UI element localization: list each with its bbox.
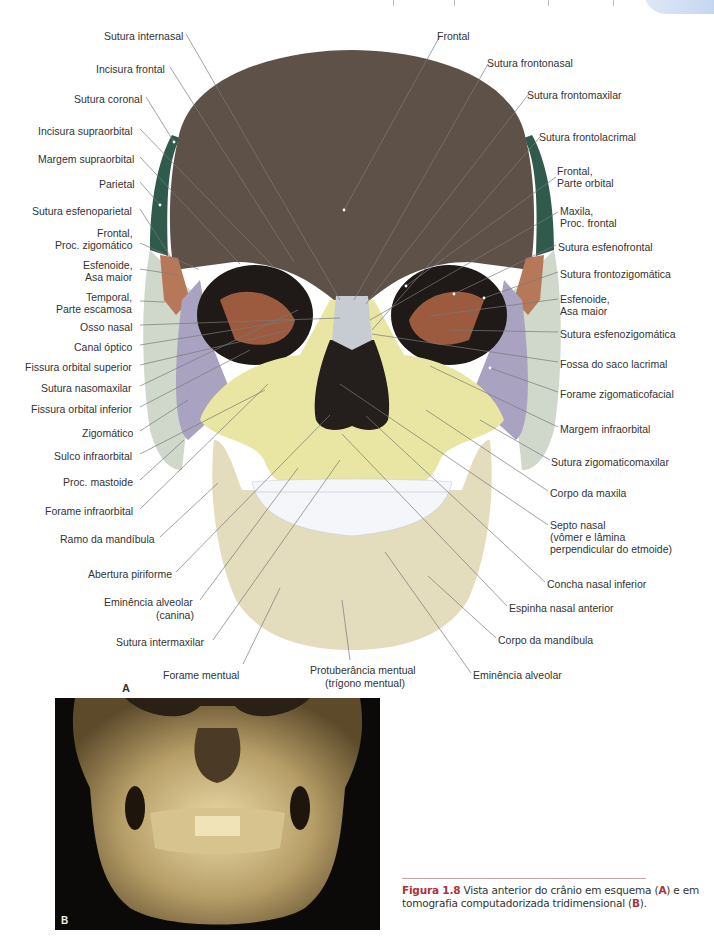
label-temporal-2: Parte escamosa: [56, 303, 132, 315]
label-esfenoide-asa-maior-1: Esfenoide,: [83, 259, 133, 271]
label-sutura-frontolacrimal: Sutura frontolacrimal: [539, 131, 636, 143]
label-esfenoide-asa-maior-right-1: Esfenoide,: [560, 293, 610, 305]
label-sutura-intermaxilar: Sutura intermaxilar: [116, 636, 204, 648]
label-eminencia-alveolar: Eminência alveolar: [473, 669, 562, 681]
label-frontal-proc-zigomatico-2: Proc. zigomático: [55, 239, 133, 251]
label-septo-nasal-2: (vômer e lâmina: [550, 531, 625, 543]
panel-b-letter: B: [61, 915, 68, 926]
label-sutura-esfenofrontal: Sutura esfenofrontal: [558, 241, 653, 253]
panel-a-letter: A: [122, 682, 130, 694]
label-esfenoide-asa-maior-right-2: Asa maior: [560, 305, 607, 317]
label-concha-nasal-inferior: Concha nasal inferior: [547, 578, 646, 590]
label-fissura-orbital-superior: Fissura orbital superior: [25, 361, 132, 373]
label-sulco-infraorbital: Sulco infraorbital: [54, 450, 132, 462]
label-sutura-frontonasal: Sutura frontonasal: [487, 57, 573, 69]
label-fissura-orbital-inferior: Fissura orbital inferior: [31, 403, 132, 415]
label-temporal-1: Temporal,: [86, 291, 132, 303]
label-margem-infraorbital: Margem infraorbital: [560, 423, 650, 435]
label-corpo-da-maxila: Corpo da maxila: [550, 487, 626, 499]
label-maxila-proc-frontal-1: Maxila,: [560, 205, 593, 217]
figure-caption: Figura 1.8 Vista anterior do crânio em e…: [402, 884, 702, 910]
figure-number: Figura 1.8: [402, 884, 460, 896]
label-sutura-frontozigomatica: Sutura frontozigomática: [560, 268, 671, 280]
label-frontal-parte-orbital-1: Frontal,: [557, 165, 593, 177]
ct-skull-render: [55, 698, 380, 930]
label-incisura-supraorbital: Incisura supraorbital: [38, 125, 133, 137]
label-eminencia-alveolar-canina-1: Eminência alveolar: [104, 596, 193, 608]
label-espinha-nasal-anterior: Espinha nasal anterior: [509, 602, 613, 614]
label-margem-supraorbital: Margem supraorbital: [38, 153, 134, 165]
label-frontal-proc-zigomatico-1: Frontal,: [97, 227, 133, 239]
label-sutura-zigomaticomaxilar: Sutura zigomaticomaxilar: [551, 456, 669, 468]
label-septo-nasal-1: Septo nasal: [550, 519, 605, 531]
label-maxila-proc-frontal-2: Proc. frontal: [560, 217, 617, 229]
label-osso-nasal: Osso nasal: [80, 321, 133, 333]
label-esfenoide-asa-maior-2: Asa maior: [85, 271, 132, 283]
label-sutura-coronal: Sutura coronal: [74, 93, 142, 105]
label-sutura-esfenozigomatica: Sutura esfenozigomática: [560, 328, 676, 340]
label-sutura-esfenoparietal: Sutura esfenoparietal: [32, 205, 132, 217]
label-sutura-internasal: Sutura internasal: [104, 30, 183, 42]
label-septo-nasal-3: perpendicular do etmoide): [550, 543, 672, 555]
caption-text-1: Vista anterior do crânio em esquema (: [460, 884, 658, 896]
label-fossa-do-saco-lacrimal: Fossa do saco lacrimal: [560, 358, 667, 370]
label-protuberancia-mentual-2: (trígono mentual): [325, 677, 405, 689]
label-sutura-frontomaxilar: Sutura frontomaxilar: [527, 89, 622, 101]
label-eminencia-alveolar-canina-2: (canina): [156, 609, 194, 621]
label-forame-mentual: Forame mentual: [163, 669, 239, 681]
label-forame-infraorbital: Forame infraorbital: [45, 505, 133, 517]
label-frontal: Frontal: [437, 30, 470, 42]
label-zigomatico: Zigomático: [82, 427, 133, 439]
label-ramo-da-mandibula: Ramo da mandíbula: [60, 533, 155, 545]
caption-letter-b: B: [632, 897, 640, 909]
skull-anterior-diagram: Sutura internasal Incisura frontal Sutur…: [0, 0, 704, 700]
caption-text-3: ).: [640, 897, 647, 909]
ct-scan-image: B: [55, 698, 380, 930]
label-abertura-piriforme: Abertura piriforme: [88, 568, 172, 580]
label-canal-optico: Canal óptico: [74, 341, 132, 353]
label-corpo-da-mandibula: Corpo da mandíbula: [498, 634, 593, 646]
label-forame-zigomaticofacial: Forame zigomaticofacial: [560, 388, 674, 400]
label-incisura-frontal: Incisura frontal: [96, 63, 165, 75]
label-protuberancia-mentual-1: Protuberância mentual: [310, 664, 416, 676]
label-frontal-parte-orbital-2: Parte orbital: [557, 177, 614, 189]
label-sutura-nasomaxilar: Sutura nasomaxilar: [41, 382, 131, 394]
label-proc-mastoide: Proc. mastoide: [63, 476, 133, 488]
label-parietal: Parietal: [99, 178, 135, 190]
caption-divider: [402, 878, 646, 879]
